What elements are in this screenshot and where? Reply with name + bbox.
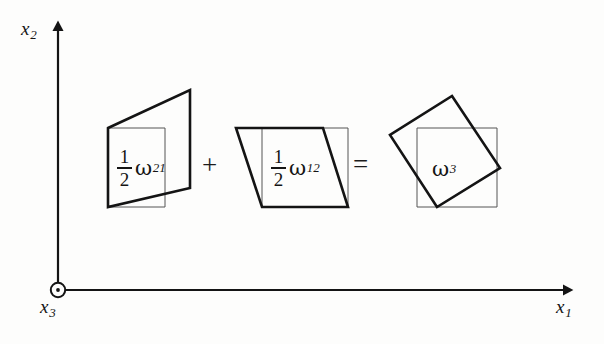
x3-axis-label-subscript: 3 <box>49 305 56 320</box>
plus-operator: + <box>202 152 217 179</box>
omega-subscript: 12 <box>307 160 320 176</box>
x2-axis-label: x2 <box>21 18 37 43</box>
x2-axis-label-text: x <box>21 18 30 39</box>
fraction-one-half: 1 2 <box>117 147 132 189</box>
x3-axis-label: x3 <box>40 296 56 321</box>
omega-subscript: 21 <box>153 160 166 176</box>
x1-axis-label-subscript: 1 <box>565 305 572 320</box>
x1-axis-label: x1 <box>556 296 572 321</box>
omega-symbol: ω <box>135 156 152 180</box>
x1-axis-label-text: x <box>556 296 565 317</box>
fraction-numerator: 1 <box>272 147 286 167</box>
fraction-numerator: 1 <box>118 147 132 167</box>
term-half-omega-21: 1 2 ω21 <box>117 147 166 189</box>
circle-dot-icon-center <box>56 288 60 292</box>
x2-axis-label-subscript: 2 <box>30 27 37 42</box>
fraction-denominator: 2 <box>118 169 132 189</box>
fraction-one-half: 1 2 <box>271 147 286 189</box>
rotation-3-rotated-square <box>390 96 500 207</box>
omega-subscript: 3 <box>450 161 457 177</box>
equals-operator: = <box>353 151 368 178</box>
term-omega-3: ω3 <box>432 157 456 181</box>
term-half-omega-12: 1 2 ω12 <box>271 147 320 189</box>
figure-canvas: x2 x3 x1 + = 1 2 ω21 1 2 ω12 ω3 <box>0 0 604 344</box>
fraction-denominator: 2 <box>272 169 286 189</box>
omega-symbol: ω <box>289 156 306 180</box>
omega-symbol: ω <box>432 157 449 181</box>
x3-axis-label-text: x <box>40 296 49 317</box>
